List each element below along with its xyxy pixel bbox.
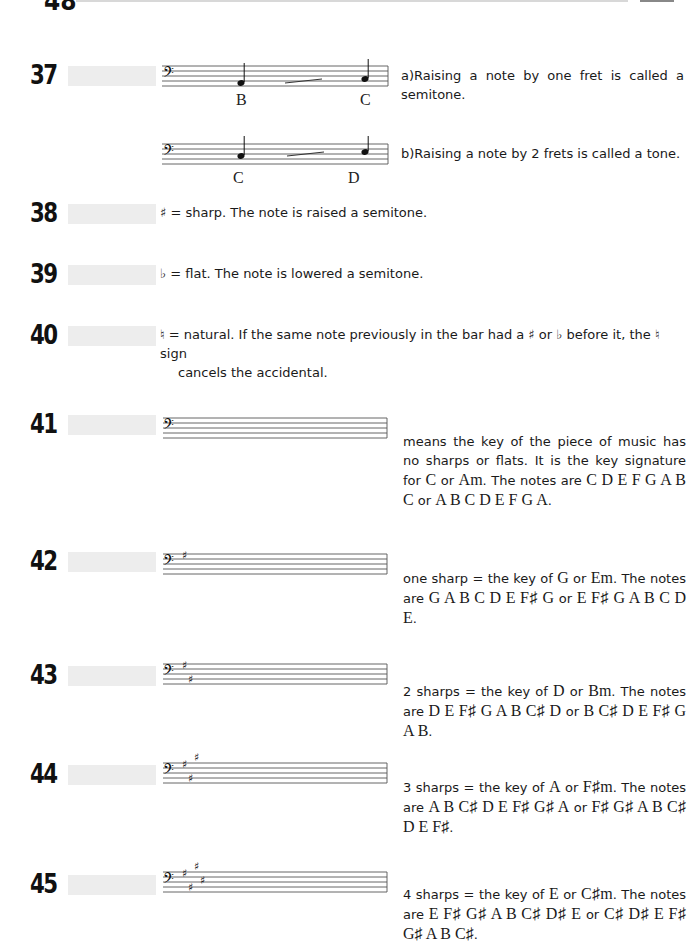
key-signature-staff-g: 𝄢 ♯ [162,548,390,578]
key-g-description: one sharp = the key of G or Em. The note… [403,568,686,628]
section-number: 44 [30,762,56,786]
flat-definition: ♭ = flat. The note is lowered a semitone… [160,264,423,283]
note-label: C [233,169,244,187]
svg-text:𝄢: 𝄢 [163,416,174,436]
section-number: 38 [30,201,56,225]
key-signature-staff-c: 𝄢 [162,414,390,440]
note-label: B [236,91,247,109]
header-tab [640,0,674,2]
svg-text:♯: ♯ [182,867,187,880]
svg-text:♯: ♯ [182,758,187,771]
svg-text:♯: ♯ [182,659,187,672]
svg-text:𝄢: 𝄢 [163,761,174,781]
key-signature-staff-d: 𝄢 ♯ ♯ [162,656,390,692]
svg-text:♯: ♯ [200,874,205,887]
key-c-description: means the key of the piece of music has … [403,432,686,510]
key-d-description: 2 sharps = the key of D or Bm. The notes… [403,681,686,741]
note-label: D [348,169,360,187]
section-band [68,765,156,785]
svg-text:♯: ♯ [188,881,193,894]
key-signature-staff-e: 𝄢 ♯ ♯ ♯ ♯ [162,862,390,902]
svg-text:𝄢: 𝄢 [163,552,174,572]
natural-definition: ♮ = natural. If the same note previously… [160,325,690,382]
example-a-text: a)Raising a note by one fret is called a… [401,66,684,104]
section-band [68,666,156,686]
section-number: 39 [30,262,56,286]
section-number: 45 [30,872,56,896]
header-rule [76,0,628,2]
svg-text:♯: ♯ [194,862,199,873]
section-band [68,552,156,572]
section-number: 37 [30,63,56,87]
key-a-description: 3 sharps = the key of A or F♯m. The note… [403,777,686,837]
section-number: 41 [30,412,56,436]
note-label: C [360,91,371,109]
section-number: 43 [30,663,56,687]
bass-staff-example-b: 𝄢 [160,136,390,168]
section-band [68,265,156,285]
section-number: 42 [30,549,56,573]
page-number: 48 [44,0,77,16]
section-band [68,204,156,224]
section-band [68,66,156,86]
bass-clef-icon: 𝄢 [163,64,174,84]
section-band [68,415,156,435]
bass-clef-icon: 𝄢 [163,142,174,162]
sharp-definition: ♯ = sharp. The note is raised a semitone… [160,203,427,222]
section-band [68,875,156,895]
key-signature-staff-a: 𝄢 ♯ ♯ ♯ [162,753,390,791]
example-b-text: b)Raising a note by 2 frets is called a … [401,144,691,163]
svg-text:♯: ♯ [188,673,193,686]
bass-staff-example-a: 𝄢 [160,58,390,90]
svg-text:♯: ♯ [194,753,199,764]
key-e-description: 4 sharps = the key of E or C♯m. The note… [403,884,686,944]
svg-text:𝄢: 𝄢 [163,662,174,682]
section-band [68,326,156,346]
svg-text:𝄢: 𝄢 [163,870,174,890]
section-number: 40 [30,323,56,347]
svg-text:♯: ♯ [188,772,193,785]
svg-text:♯: ♯ [182,549,187,562]
